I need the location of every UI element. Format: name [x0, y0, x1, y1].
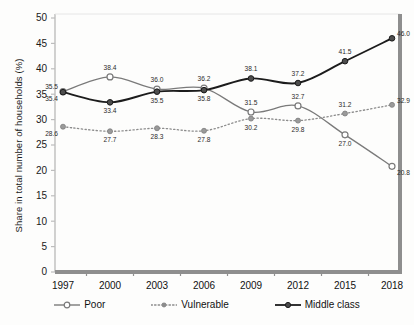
data-point-label: 29.8	[292, 126, 305, 133]
legend-label-vulnerable: Vulnerable	[181, 300, 228, 310]
data-point-label: 32.9	[397, 97, 410, 104]
chart-page: Share in total number of households (%) …	[0, 0, 414, 325]
data-point-label: 36.0	[151, 76, 164, 83]
y-tick-label: 30	[36, 114, 48, 125]
data-point-label: 38.4	[104, 64, 117, 71]
data-point-marker	[390, 102, 395, 107]
data-point-label: 33.4	[104, 107, 117, 114]
y-tick-label: 15	[36, 190, 48, 201]
data-point-marker	[202, 128, 207, 133]
legend-item-poor[interactable]: Poor	[54, 300, 105, 310]
data-point-label: 32.7	[292, 93, 305, 100]
data-point-marker	[248, 76, 254, 82]
data-point-marker	[342, 132, 348, 138]
data-point-marker	[61, 124, 66, 129]
data-point-label: 36.2	[198, 75, 211, 82]
y-tick-label: 50	[36, 12, 48, 23]
data-point-label: 41.5	[339, 48, 352, 55]
data-point-label: 35.5	[151, 97, 164, 104]
data-point-marker	[342, 58, 348, 64]
x-tick-label: 2018	[381, 280, 404, 291]
data-point-marker	[295, 103, 301, 109]
data-point-label: 37.2	[292, 70, 305, 77]
legend-label-poor: Poor	[84, 300, 105, 310]
data-point-label: 35.8	[198, 95, 211, 102]
legend-swatch-middle-class-icon	[275, 300, 301, 310]
data-point-label: 27.0	[339, 140, 352, 147]
data-point-label: 28.3	[151, 133, 164, 140]
x-tick-label: 2012	[287, 280, 310, 291]
data-point-marker	[389, 163, 395, 169]
data-point-marker	[249, 116, 254, 121]
data-point-marker	[201, 87, 207, 93]
y-tick-label: 5	[41, 241, 47, 252]
data-point-label: 28.6	[45, 130, 58, 137]
legend-label-middle-class: Middle class	[305, 300, 360, 310]
y-tick-label: 40	[36, 63, 48, 74]
data-point-marker	[389, 36, 395, 42]
legend-item-vulnerable[interactable]: Vulnerable	[151, 300, 228, 310]
data-point-label: 35.5	[45, 83, 58, 90]
y-tick-label: 20	[36, 165, 48, 176]
data-point-marker	[107, 100, 113, 106]
y-tick-label: 10	[36, 216, 48, 227]
x-tick-label: 2003	[146, 280, 169, 291]
x-tick-label: 1997	[52, 280, 75, 291]
data-point-marker	[296, 118, 301, 123]
legend-swatch-poor-icon	[54, 300, 80, 310]
data-point-marker	[154, 89, 160, 95]
y-tick-label: 0	[41, 266, 47, 277]
x-tick-label: 2015	[334, 280, 357, 291]
data-point-marker	[108, 129, 113, 134]
data-point-label: 38.1	[245, 65, 258, 72]
data-point-marker	[155, 126, 160, 131]
data-point-label: 31.2	[339, 101, 352, 108]
y-tick-label: 45	[36, 38, 48, 49]
x-tick-label: 2009	[240, 280, 263, 291]
legend-swatch-vulnerable-icon	[151, 300, 177, 310]
series-line-poor	[63, 77, 392, 166]
y-tick-label: 25	[36, 139, 48, 150]
data-point-label: 27.7	[104, 136, 117, 143]
data-point-label: 35.4	[45, 95, 58, 102]
data-point-label: 20.8	[397, 169, 410, 176]
data-point-label: 46.0	[397, 30, 410, 37]
chart-legend: Poor Vulnerable Middle class	[0, 300, 414, 310]
data-point-label: 31.5	[245, 99, 258, 106]
line-chart: 05101520253035404550 1997200020032006200…	[0, 0, 414, 325]
x-tick-label: 2006	[193, 280, 216, 291]
x-tick-label: 2000	[99, 280, 122, 291]
data-point-marker	[107, 74, 113, 80]
data-point-marker	[248, 109, 254, 115]
data-point-marker	[60, 89, 66, 95]
data-point-marker	[343, 111, 348, 116]
data-point-label: 27.8	[198, 136, 211, 143]
data-point-label: 30.2	[245, 124, 258, 131]
legend-item-middle-class[interactable]: Middle class	[275, 300, 360, 310]
data-point-marker	[295, 80, 301, 86]
